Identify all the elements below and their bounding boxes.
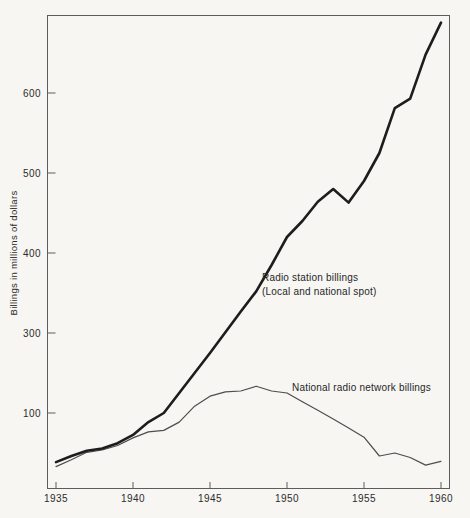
network-series-label: National radio network billings (292, 382, 431, 393)
y-tick-label-100: 100 (23, 408, 41, 419)
chart-page: 100300400500600193519401945195019551960 … (0, 0, 470, 518)
radio-billings-line-chart: 100300400500600193519401945195019551960 … (0, 0, 470, 518)
x-tick-label-1940: 1940 (121, 493, 145, 504)
station-series-label-line1: Radio station billings (262, 272, 358, 283)
x-tick-label-1935: 1935 (44, 493, 68, 504)
station-series-label-line2: (Local and national spot) (262, 286, 377, 297)
network-billings-line (56, 386, 441, 466)
chart-frame (48, 16, 450, 489)
y-tick-label-400: 400 (23, 248, 41, 259)
y-tick-label-500: 500 (23, 168, 41, 179)
x-tick-label-1945: 1945 (198, 493, 222, 504)
y-tick-label-600: 600 (23, 88, 41, 99)
x-tick-label-1960: 1960 (429, 493, 453, 504)
station-billings-line (56, 23, 441, 463)
x-tick-label-1955: 1955 (352, 493, 376, 504)
chart-generated-layer: 100300400500600193519401945195019551960 (23, 16, 453, 504)
y-tick-label-300: 300 (23, 328, 41, 339)
y-axis-title: Billings in millions of dollars (8, 191, 19, 316)
x-tick-label-1950: 1950 (275, 493, 299, 504)
